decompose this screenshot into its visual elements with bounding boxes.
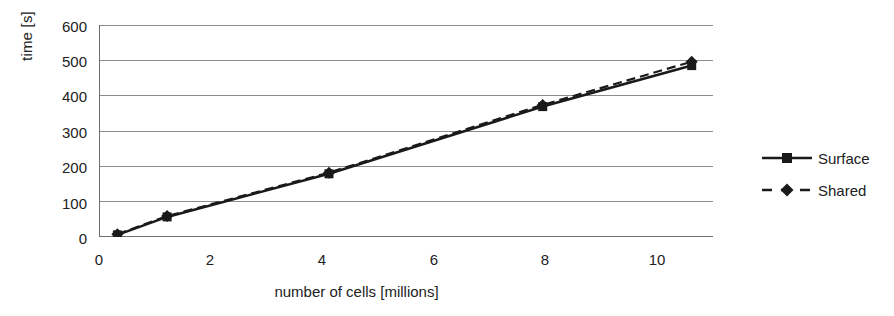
y-tick-label-0: 0 bbox=[41, 231, 87, 246]
series-markers-shared bbox=[111, 56, 697, 237]
y-tick-label-600: 600 bbox=[41, 19, 87, 34]
square-marker-icon bbox=[782, 153, 792, 163]
x-tick-label-2: 2 bbox=[190, 252, 230, 267]
plot-area bbox=[99, 25, 713, 237]
legend-key-surface bbox=[760, 149, 814, 167]
y-axis-title: time [s] bbox=[18, 0, 35, 96]
x-tick-label-6: 6 bbox=[414, 252, 454, 267]
chart-legend: Surface Shared bbox=[760, 142, 890, 206]
diamond-marker-icon bbox=[781, 184, 794, 197]
x-tick-label-0: 0 bbox=[79, 252, 119, 267]
legend-key-shared bbox=[760, 181, 814, 199]
y-tick-label-500: 500 bbox=[41, 54, 87, 69]
legend-label-surface: Surface bbox=[818, 150, 870, 167]
x-axis-title: number of cells [millions] bbox=[0, 283, 713, 300]
y-tick-label-200: 200 bbox=[41, 160, 87, 175]
chart-figure: time [s] 600 500 400 300 200 100 0 bbox=[0, 0, 894, 316]
gridlines bbox=[99, 26, 713, 202]
legend-label-shared: Shared bbox=[818, 182, 866, 199]
series-line-surface bbox=[117, 66, 691, 235]
y-tick-label-300: 300 bbox=[41, 125, 87, 140]
legend-item-surface[interactable]: Surface bbox=[760, 142, 890, 174]
y-tick-label-100: 100 bbox=[41, 196, 87, 211]
x-tick-label-10: 10 bbox=[637, 252, 677, 267]
y-tick-label-400: 400 bbox=[41, 89, 87, 104]
x-tick-label-8: 8 bbox=[525, 252, 565, 267]
legend-item-shared[interactable]: Shared bbox=[760, 174, 890, 206]
x-tick-label-4: 4 bbox=[302, 252, 342, 267]
